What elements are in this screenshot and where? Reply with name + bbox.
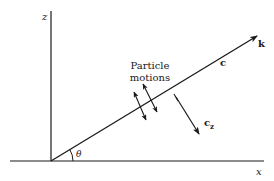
particle-motion-label-line1: Particle [131,60,170,71]
x-axis-label: x [256,166,262,177]
wave-vector-label: k [258,38,266,49]
vertical-velocity-label: cz [204,117,214,131]
particle-motion-arrow-1 [134,92,146,120]
wave-vector-arrow [51,36,257,161]
angle-label: θ [76,149,82,159]
wave-diagram: z x k c cz θ Particle motions [0,0,274,181]
angle-theta-arc [70,150,73,161]
vertical-velocity-arrow [176,97,199,134]
z-axis-label: z [41,11,48,22]
phase-velocity-label: c [220,57,226,68]
particle-motion-label-line2: motions [130,72,170,83]
